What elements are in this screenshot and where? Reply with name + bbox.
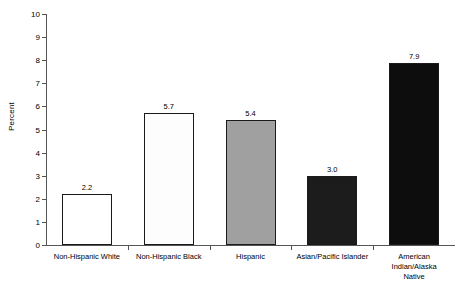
x-axis-category-label: Hispanic bbox=[236, 252, 265, 262]
x-axis-tick-mark bbox=[291, 246, 292, 250]
y-axis-tick-label: 2 bbox=[36, 194, 40, 203]
y-axis-tick-label: 10 bbox=[31, 10, 40, 19]
y-axis-tick-mark bbox=[42, 176, 46, 177]
y-axis-tick-mark bbox=[42, 245, 46, 246]
y-axis-title: Percent bbox=[7, 87, 16, 147]
bar-value-label: 2.2 bbox=[82, 183, 92, 192]
bar-value-label: 3.0 bbox=[327, 165, 337, 174]
plot-area: 012345678910 2.25.75.43.07.9 bbox=[46, 14, 455, 246]
x-axis-category-label: Asian/Pacific Islander bbox=[296, 252, 368, 262]
y-axis-tick-label: 9 bbox=[36, 33, 40, 42]
y-axis-tick-label: 5 bbox=[36, 125, 40, 134]
bar bbox=[226, 120, 276, 245]
x-axis-category-label: Non-Hispanic Black bbox=[136, 252, 201, 262]
y-axis-line bbox=[46, 14, 47, 246]
y-axis-tick-mark bbox=[42, 153, 46, 154]
y-axis-tick-label: 8 bbox=[36, 56, 40, 65]
y-axis-tick-mark bbox=[42, 14, 46, 15]
y-axis-tick-mark bbox=[42, 83, 46, 84]
x-axis-tick-mark bbox=[373, 246, 374, 250]
bar bbox=[144, 113, 194, 245]
y-axis-tick-mark bbox=[42, 222, 46, 223]
y-axis-tick-label: 1 bbox=[36, 217, 40, 226]
bar bbox=[307, 176, 357, 245]
y-axis-tick-mark bbox=[42, 106, 46, 107]
x-axis-tick-mark bbox=[210, 246, 211, 250]
bar bbox=[62, 194, 112, 245]
x-axis-line bbox=[46, 245, 455, 246]
y-axis-tick-label: 4 bbox=[36, 148, 40, 157]
x-axis-category-label: American Indian/Alaska Native bbox=[392, 252, 437, 282]
x-axis-category-label: Non-Hispanic White bbox=[54, 252, 120, 262]
bar-value-label: 5.7 bbox=[163, 102, 173, 111]
y-axis-tick-mark bbox=[42, 130, 46, 131]
y-axis-tick-mark bbox=[42, 60, 46, 61]
bar-value-label: 7.9 bbox=[409, 52, 419, 61]
x-axis-tick-mark bbox=[128, 246, 129, 250]
y-axis-tick-label: 7 bbox=[36, 79, 40, 88]
bar-value-label: 5.4 bbox=[245, 109, 255, 118]
bar-chart: Percent 012345678910 2.25.75.43.07.9 Non… bbox=[0, 0, 457, 294]
y-axis-tick-label: 0 bbox=[36, 241, 40, 250]
y-axis-tick-mark bbox=[42, 199, 46, 200]
y-axis-tick-mark bbox=[42, 37, 46, 38]
y-axis-tick-label: 6 bbox=[36, 102, 40, 111]
y-axis-tick-label: 3 bbox=[36, 171, 40, 180]
bar bbox=[389, 63, 439, 245]
